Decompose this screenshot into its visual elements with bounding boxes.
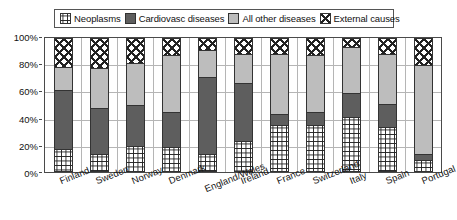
stacked-bar[interactable] bbox=[234, 38, 253, 172]
bar-segment bbox=[199, 39, 216, 50]
bar-slot bbox=[45, 38, 81, 172]
bar-segment bbox=[307, 125, 324, 171]
bar-segment bbox=[127, 39, 144, 63]
bar-slot bbox=[297, 38, 333, 172]
bar-segment bbox=[91, 108, 108, 154]
bar-segment bbox=[235, 83, 252, 141]
y-axis-tick-mark bbox=[39, 119, 42, 120]
bar-segment bbox=[127, 63, 144, 105]
bar-segment bbox=[55, 149, 72, 171]
bar-segment bbox=[199, 77, 216, 154]
bar-segment bbox=[379, 54, 396, 104]
legend-label-all-other-diseases: All other diseases bbox=[242, 13, 315, 24]
bar-segment bbox=[163, 112, 180, 148]
bar-slot bbox=[189, 38, 225, 172]
stacked-bar[interactable] bbox=[90, 38, 109, 172]
y-axis-tick-mark bbox=[39, 64, 42, 65]
bar-slot bbox=[405, 38, 441, 172]
legend-swatch-all-other-diseases-icon bbox=[228, 13, 239, 24]
bar-segment bbox=[91, 39, 108, 68]
legend-label-neoplasms: Neoplasms bbox=[74, 13, 121, 24]
y-axis: 100%80%60%40%20%0% bbox=[0, 37, 42, 173]
bar-slot bbox=[225, 38, 261, 172]
bar-segment bbox=[55, 39, 72, 67]
legend-label-external-causes: External causes bbox=[334, 13, 400, 24]
bar-segment bbox=[235, 54, 252, 83]
bar-segment bbox=[379, 104, 396, 128]
stacked-bar[interactable] bbox=[126, 38, 145, 172]
bar-segment bbox=[415, 65, 432, 153]
legend-swatch-cardiovasc-diseases-icon bbox=[125, 13, 136, 24]
bar-segment bbox=[127, 146, 144, 171]
bar-segment bbox=[307, 39, 324, 55]
stacked-bar[interactable] bbox=[162, 38, 181, 172]
bar-segment bbox=[343, 47, 360, 93]
bar-segment bbox=[307, 55, 324, 112]
legend-item-neoplasms: Neoplasms bbox=[60, 13, 121, 24]
chart-legend: Neoplasms Cardiovasc diseases All other … bbox=[54, 9, 394, 28]
bar-segment bbox=[343, 39, 360, 47]
bar-segment bbox=[271, 114, 288, 125]
stacked-bar[interactable] bbox=[270, 38, 289, 172]
bar-segment bbox=[163, 39, 180, 55]
y-axis-tick-mark bbox=[39, 172, 42, 173]
stacked-bar[interactable] bbox=[414, 38, 433, 172]
bar-segment bbox=[307, 112, 324, 125]
y-axis-tick-mark bbox=[39, 91, 42, 92]
bar-segment bbox=[271, 125, 288, 171]
stacked-bar[interactable] bbox=[378, 38, 397, 172]
y-axis-tick-label: 40% bbox=[19, 113, 38, 124]
bar-slot bbox=[369, 38, 405, 172]
stacked-bar[interactable] bbox=[54, 38, 73, 172]
stacked-bar[interactable] bbox=[342, 38, 361, 172]
bar-segment bbox=[199, 50, 216, 78]
bar-slot bbox=[333, 38, 369, 172]
bar-segment bbox=[91, 154, 108, 171]
bar-segment bbox=[55, 90, 72, 148]
y-axis-tick-label: 80% bbox=[19, 59, 38, 70]
bar-segment bbox=[379, 127, 396, 171]
y-axis-tick-label: 20% bbox=[19, 140, 38, 151]
bar-slot bbox=[117, 38, 153, 172]
bar-slot bbox=[261, 38, 297, 172]
legend-item-cardiovasc-diseases: Cardiovasc diseases bbox=[125, 13, 225, 24]
y-axis-tick-label: 0% bbox=[24, 168, 38, 179]
bar-segment bbox=[163, 147, 180, 171]
bar-segment bbox=[91, 68, 108, 108]
y-axis-tick-mark bbox=[39, 146, 42, 147]
bar-segment bbox=[163, 55, 180, 112]
x-axis: FinlandSwedenNorwayDenmarkEngland/WalesI… bbox=[44, 174, 442, 220]
bar-slot bbox=[81, 38, 117, 172]
bar-segment bbox=[235, 39, 252, 54]
bar-segment bbox=[271, 39, 288, 54]
bar-segment bbox=[415, 160, 432, 171]
legend-label-cardiovasc-diseases: Cardiovasc diseases bbox=[139, 13, 225, 24]
legend-item-external-causes: External causes bbox=[320, 13, 400, 24]
legend-swatch-external-causes-icon bbox=[320, 13, 331, 24]
bar-segment bbox=[415, 154, 432, 161]
bar-segment bbox=[415, 39, 432, 65]
stacked-bar[interactable] bbox=[198, 38, 217, 172]
bar-group bbox=[45, 38, 441, 172]
stacked-bar[interactable] bbox=[306, 38, 325, 172]
y-axis-tick-mark bbox=[39, 37, 42, 38]
bar-segment bbox=[379, 39, 396, 54]
bar-segment bbox=[271, 54, 288, 115]
plot-area bbox=[44, 37, 442, 173]
bar-slot bbox=[153, 38, 189, 172]
y-axis-tick-label: 60% bbox=[19, 86, 38, 97]
bar-segment bbox=[127, 105, 144, 146]
bar-segment bbox=[55, 67, 72, 91]
legend-item-all-other-diseases: All other diseases bbox=[228, 13, 315, 24]
y-axis-tick-label: 100% bbox=[14, 32, 38, 43]
bar-segment bbox=[343, 93, 360, 117]
legend-swatch-neoplasms-icon bbox=[60, 13, 71, 24]
